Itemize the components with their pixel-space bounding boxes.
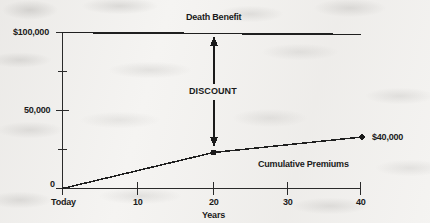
x-axis-label-20: 20 bbox=[209, 198, 219, 207]
x-axis-label-today: Today bbox=[51, 198, 76, 207]
annotation-label-discount: DISCOUNT bbox=[189, 87, 237, 96]
arrowhead-up bbox=[210, 36, 218, 46]
data-point-year-40 bbox=[359, 134, 364, 139]
series-death-benefit bbox=[63, 33, 362, 35]
arrowhead-down bbox=[210, 137, 218, 147]
x-axis-label-40: 40 bbox=[356, 198, 366, 207]
x-axis-label-30: 30 bbox=[283, 198, 293, 207]
chart-plot-area bbox=[0, 0, 430, 223]
series-label-cumulative-premiums: Cumulative Premiums bbox=[258, 160, 349, 169]
y-axis-label-0: 0 bbox=[50, 180, 55, 189]
x-axis-label-10: 10 bbox=[133, 198, 143, 207]
data-point-label-40000: $40,000 bbox=[372, 133, 403, 142]
y-axis-label-100000: $100,000 bbox=[13, 28, 49, 37]
series-label-death-benefit: Death Benefit bbox=[186, 13, 241, 22]
chart-figure: $100,000 50,000 0 Today 10 20 30 40 Year… bbox=[0, 0, 430, 223]
y-axis-label-50000: 50,000 bbox=[24, 106, 50, 115]
data-point-year-20 bbox=[211, 150, 216, 155]
x-axis-title: Years bbox=[202, 211, 225, 220]
